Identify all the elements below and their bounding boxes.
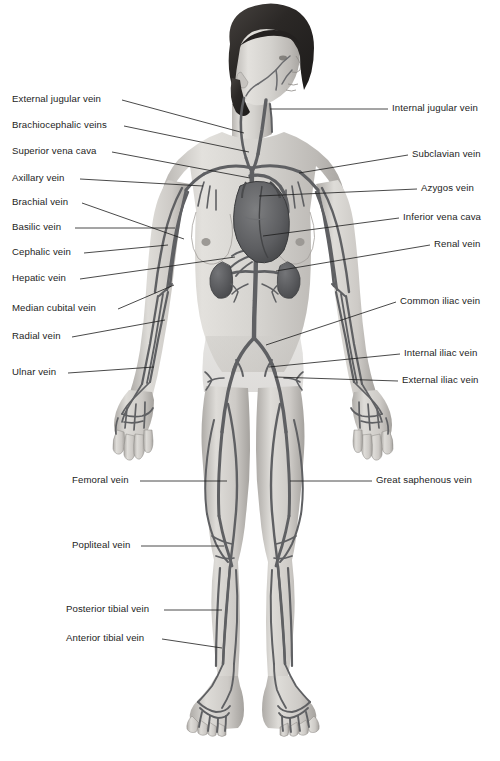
- label-internal-jugular-vein: Internal jugular vein: [392, 102, 478, 114]
- label-internal-iliac-vein: Internal iliac vein: [404, 347, 477, 359]
- label-popliteal-vein: Popliteal vein: [72, 539, 130, 551]
- label-median-cubital-vein: Median cubital vein: [12, 302, 96, 314]
- label-radial-vein: Radial vein: [12, 330, 61, 342]
- label-cephalic-vein: Cephalic vein: [12, 246, 71, 258]
- label-external-jugular-vein: External jugular vein: [12, 93, 101, 105]
- label-superior-vena-cava: Superior vena cava: [12, 145, 96, 157]
- label-hepatic-vein: Hepatic vein: [12, 272, 66, 284]
- label-brachiocephalic-veins: Brachiocephalic veins: [12, 119, 107, 131]
- label-axillary-vein: Axillary vein: [12, 172, 64, 184]
- label-azygos-vein: Azygos vein: [421, 182, 474, 194]
- label-anterior-tibial-vein: Anterior tibial vein: [66, 632, 144, 644]
- label-femoral-vein: Femoral vein: [72, 474, 129, 486]
- label-great-saphenous-vein: Great saphenous vein: [376, 474, 472, 486]
- label-subclavian-vein: Subclavian vein: [412, 148, 481, 160]
- leader-external-jugular-vein: [122, 100, 244, 133]
- label-external-iliac-vein: External iliac vein: [402, 374, 479, 386]
- leader-anterior-tibial-vein: [162, 639, 222, 648]
- label-renal-vein: Renal vein: [434, 238, 480, 250]
- label-common-iliac-vein: Common iliac vein: [400, 295, 480, 307]
- diagram-canvas: External jugular veinBrachiocephalic vei…: [0, 0, 500, 761]
- label-inferior-vena-cava: Inferior vena cava: [403, 211, 481, 223]
- label-posterior-tibial-vein: Posterior tibial vein: [66, 603, 149, 615]
- label-ulnar-vein: Ulnar vein: [12, 366, 56, 378]
- label-brachial-vein: Brachial vein: [12, 196, 68, 208]
- leader-axillary-vein: [80, 179, 203, 186]
- label-basilic-vein: Basilic vein: [12, 221, 61, 233]
